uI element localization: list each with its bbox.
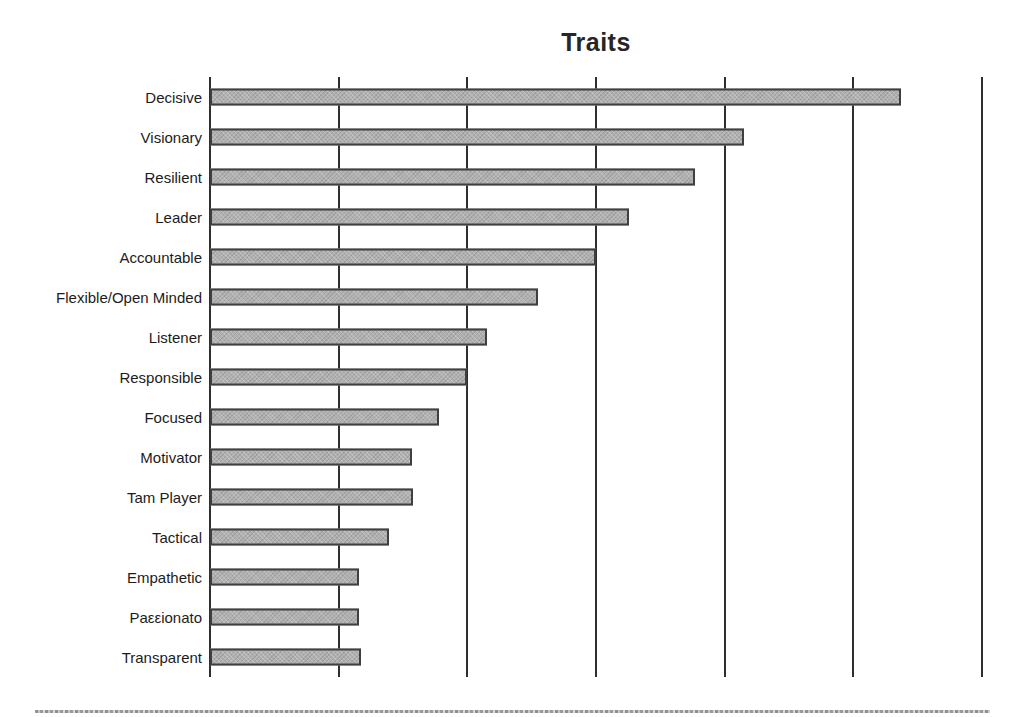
- bar: [210, 649, 361, 666]
- label-row: Focused: [0, 397, 202, 437]
- category-label: Tactical: [152, 529, 202, 546]
- label-row: Leader: [0, 197, 202, 237]
- bar-row: [210, 597, 982, 637]
- bar-row: [210, 557, 982, 597]
- label-row: Tam Player: [0, 477, 202, 517]
- label-row: Motivator: [0, 437, 202, 477]
- bar: [210, 129, 744, 146]
- category-label: Tam Player: [127, 489, 202, 506]
- category-label: Responsible: [119, 369, 202, 386]
- bar: [210, 89, 901, 106]
- label-row: Decisive: [0, 77, 202, 117]
- bar-row: [210, 197, 982, 237]
- scanned-chart-page: Traits DecisiveVisionaryResilientLeaderA…: [0, 0, 1021, 717]
- label-row: Visionary: [0, 117, 202, 157]
- label-row: Responsible: [0, 357, 202, 397]
- category-label: Focused: [144, 409, 202, 426]
- label-row: Paεεionato: [0, 597, 202, 637]
- bar: [210, 489, 413, 506]
- bar-row: [210, 637, 982, 677]
- label-row: Resilient: [0, 157, 202, 197]
- bar-row: [210, 157, 982, 197]
- bar: [210, 529, 389, 546]
- label-row: Tactical: [0, 517, 202, 557]
- bottom-divider-line: [35, 710, 990, 713]
- bar: [210, 369, 467, 386]
- category-label: Flexible/Open Minded: [56, 289, 202, 306]
- category-label: Listener: [149, 329, 202, 346]
- plot-area: [210, 77, 982, 677]
- bar-row: [210, 317, 982, 357]
- bar: [210, 209, 629, 226]
- category-label: Resilient: [144, 169, 202, 186]
- label-row: Listener: [0, 317, 202, 357]
- category-label: Visionary: [141, 129, 202, 146]
- category-label: Leader: [155, 209, 202, 226]
- bar: [210, 609, 359, 626]
- bar-rows: [210, 77, 982, 677]
- bar-row: [210, 237, 982, 277]
- label-row: Empathetic: [0, 557, 202, 597]
- bar: [210, 449, 412, 466]
- bar-row: [210, 517, 982, 557]
- category-label: Accountable: [119, 249, 202, 266]
- bar-row: [210, 437, 982, 477]
- chart-title: Traits: [210, 28, 982, 57]
- bar: [210, 289, 538, 306]
- category-label: Decisive: [145, 89, 202, 106]
- bar-row: [210, 477, 982, 517]
- bar-row: [210, 357, 982, 397]
- bar: [210, 249, 596, 266]
- label-row: Flexible/Open Minded: [0, 277, 202, 317]
- label-row: Transparent: [0, 637, 202, 677]
- bar-row: [210, 277, 982, 317]
- category-label: Transparent: [122, 649, 202, 666]
- category-labels: DecisiveVisionaryResilientLeaderAccounta…: [0, 77, 202, 677]
- bar: [210, 169, 695, 186]
- bar: [210, 569, 359, 586]
- bar: [210, 409, 439, 426]
- bar-row: [210, 397, 982, 437]
- bar-row: [210, 117, 982, 157]
- category-label: Motivator: [140, 449, 202, 466]
- bar-row: [210, 77, 982, 117]
- category-label: Empathetic: [127, 569, 202, 586]
- label-row: Accountable: [0, 237, 202, 277]
- bar: [210, 329, 487, 346]
- category-label: Paεεionato: [129, 609, 202, 626]
